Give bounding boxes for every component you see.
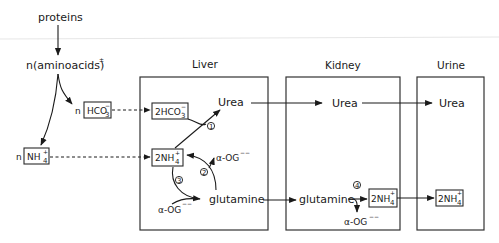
svg-text:2NH: 2NH [438, 194, 457, 204]
step-2-marker: 2 [200, 168, 207, 176]
svg-text:2NH: 2NH [371, 194, 390, 204]
svg-text:NH: NH [27, 152, 41, 162]
liver-nh4-node: 2NH 4 + [152, 149, 183, 166]
svg-text:3: 3 [177, 177, 181, 185]
step-1-marker: 1 [207, 122, 214, 130]
aminoacids-label: n(aminoacids) ± [26, 56, 104, 72]
svg-text:n: n [75, 106, 81, 116]
kidney-urea-label: Urea [332, 97, 358, 110]
svg-text:2HCO: 2HCO [155, 107, 181, 117]
svg-text:4: 4 [43, 157, 48, 165]
left-hco3-node: n HCO 3 − [75, 102, 111, 119]
organ-label-kidney: Kidney [325, 59, 361, 71]
aminoacids-to-nh4-arrow [41, 74, 58, 145]
svg-text:±: ± [99, 56, 104, 63]
svg-text:4: 4 [457, 199, 462, 207]
svg-text:2NH: 2NH [155, 153, 174, 163]
liver-aog-top: α-OG −− [216, 149, 250, 163]
svg-text:n(aminoacids): n(aminoacids) [26, 59, 104, 72]
svg-text:n: n [16, 152, 22, 162]
proteins-label: proteins [38, 11, 83, 24]
left-nh4-node: n NH 4 + [16, 148, 49, 165]
svg-text:4: 4 [390, 199, 395, 207]
urea-ammonia-pathway-diagram: proteins n(aminoacids) ± n HCO 3 − n NH … [0, 0, 499, 243]
svg-text:4: 4 [355, 182, 360, 190]
svg-text:α-OG: α-OG [158, 205, 181, 215]
urine-urea-label: Urea [439, 97, 465, 110]
svg-text:4: 4 [175, 158, 180, 166]
scan-artifact-line [0, 37, 499, 39]
liver-glutamine-label: glutamine [209, 193, 265, 206]
aog-release-arrow [209, 158, 214, 168]
svg-text:1: 1 [209, 123, 213, 131]
step-3-marker: 3 [175, 176, 182, 184]
svg-text:−: − [105, 102, 110, 109]
svg-text:3: 3 [105, 111, 109, 119]
svg-text:α-OG: α-OG [216, 153, 239, 163]
svg-text:+: + [175, 149, 180, 156]
svg-text:+: + [390, 189, 395, 196]
urine-nh4-node: 2NH 4 + [436, 189, 463, 207]
svg-text:+: + [457, 189, 462, 196]
liver-urea-label: Urea [218, 96, 244, 109]
svg-text:−−: −− [369, 213, 379, 220]
organ-label-urine: Urine [437, 59, 465, 71]
svg-text:α-OG: α-OG [344, 217, 367, 227]
kidney-nh4-node: 2NH 4 + [369, 189, 397, 207]
svg-text:−−: −− [240, 149, 250, 156]
liver-hco3-node: 2HCO 3 − [152, 103, 188, 120]
step-4-marker: 4 [353, 181, 360, 189]
kidney-aog: α-OG −− [344, 213, 379, 227]
svg-text:2: 2 [202, 169, 206, 177]
organ-label-liver: Liver [192, 58, 218, 70]
svg-text:−: − [181, 103, 186, 110]
svg-text:−−: −− [182, 200, 192, 207]
svg-text:+: + [43, 148, 48, 155]
aminoacids-to-hco3-arrow [58, 74, 72, 104]
svg-text:3: 3 [181, 112, 185, 120]
kidney-glutamine-label: glutamine [299, 193, 355, 206]
